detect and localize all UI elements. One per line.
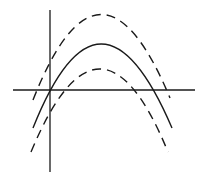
upper-dashed-parabola [33,14,170,100]
parabola-diagram [0,0,202,182]
